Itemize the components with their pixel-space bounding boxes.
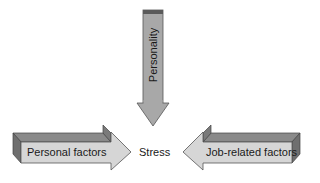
stress-label: Stress xyxy=(139,146,170,158)
personal-factors-label: Personal factors xyxy=(27,146,106,158)
personality-label: Personality xyxy=(147,28,159,82)
job-related-factors-label: Job-related factors xyxy=(206,146,297,158)
